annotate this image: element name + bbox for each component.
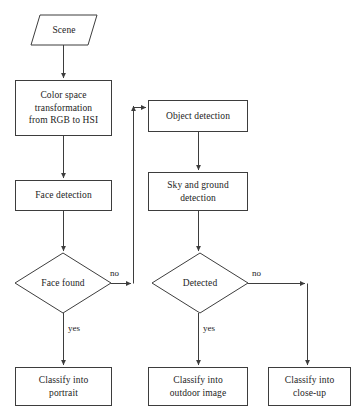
shape-colorspace-rect (16, 81, 112, 136)
shape-scene-parallelogram (31, 15, 97, 45)
shape-facefound-diamond (15, 253, 111, 313)
edge-label-detected-yes: yes (203, 323, 215, 333)
shape-detected-diamond (152, 253, 248, 313)
edge-label-face-found-yes: yes (68, 323, 80, 333)
flowchart-diagram: Scene Color space transformation from RG… (0, 0, 357, 419)
shape-classify-outdoor-rect (149, 368, 248, 406)
edge-label-face-found-no: no (110, 268, 119, 278)
edge-label-detected-no: no (252, 268, 261, 278)
shape-classify-portrait-rect (16, 368, 112, 406)
shape-facedetection-rect (16, 181, 112, 211)
flowchart-connectors-layer (0, 0, 357, 419)
shape-skyground-rect (149, 173, 248, 211)
shape-classify-closeup-rect (269, 368, 351, 406)
shape-objectdetection-rect (149, 101, 248, 132)
